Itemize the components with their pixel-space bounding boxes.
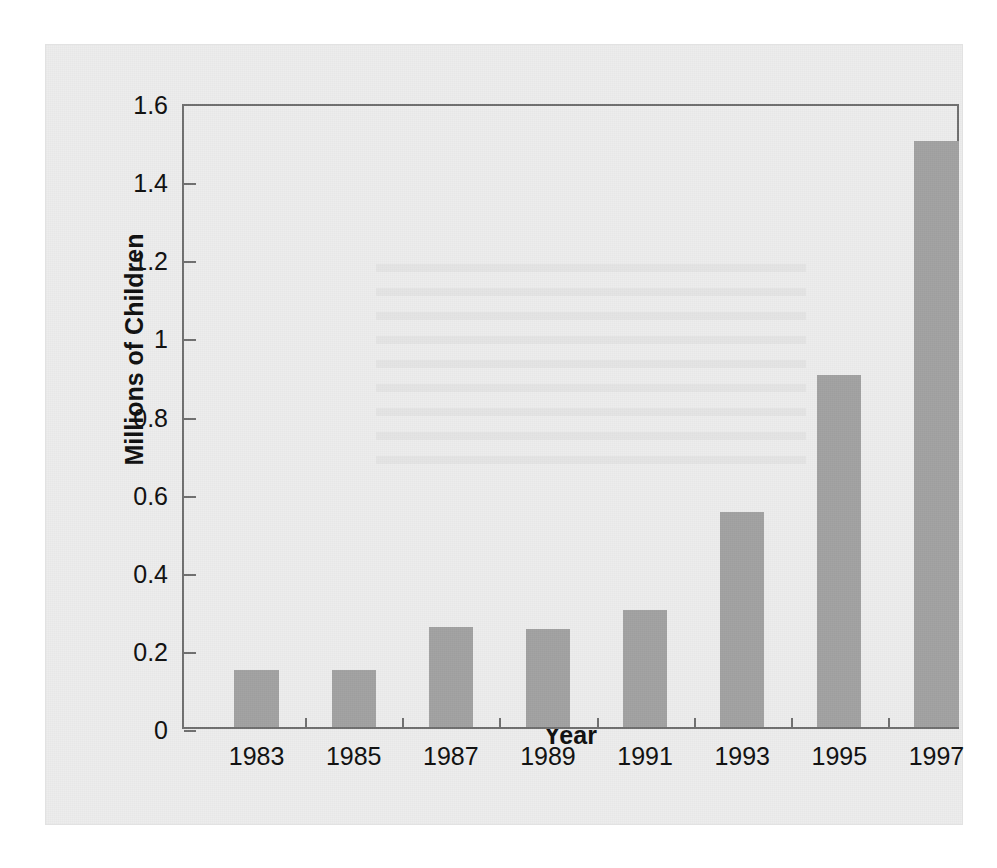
bar (623, 610, 667, 727)
bar (332, 670, 376, 727)
y-tick-mark (184, 730, 196, 732)
y-tick-label: 1.6 (88, 92, 168, 119)
y-tick-mark (184, 339, 196, 341)
y-tick-mark (184, 418, 196, 420)
bar (914, 141, 958, 727)
plot-area: 00.20.40.60.811.21.41.6 1983198519871989… (182, 104, 959, 729)
x-tick-mark (791, 718, 793, 727)
y-tick-label: 0.2 (88, 639, 168, 666)
x-tick-mark (402, 718, 404, 727)
x-tick-mark (694, 718, 696, 727)
y-tick-mark (184, 496, 196, 498)
y-tick-label: 0.8 (88, 405, 168, 432)
y-tick-mark (184, 183, 196, 185)
y-tick-label: 0 (88, 717, 168, 744)
x-tick-label: 1997 (876, 742, 996, 771)
x-tick-mark (597, 718, 599, 727)
x-tick-mark (888, 718, 890, 727)
y-tick-label: 1.2 (88, 248, 168, 275)
y-tick-label: 1 (88, 326, 168, 353)
y-tick-mark (184, 261, 196, 263)
y-tick-label: 0.6 (88, 483, 168, 510)
figure-card: Millions of Children Year 00.20.40.60.81… (46, 45, 962, 824)
y-tick-label: 1.4 (88, 170, 168, 197)
x-tick-mark (499, 718, 501, 727)
y-tick-label: 0.4 (88, 561, 168, 588)
bar (429, 627, 473, 727)
x-tick-mark (305, 718, 307, 727)
bar (526, 629, 570, 727)
bar (234, 670, 278, 727)
y-tick-mark (184, 574, 196, 576)
y-tick-mark (184, 652, 196, 654)
bar (817, 375, 861, 727)
bar (720, 512, 764, 727)
